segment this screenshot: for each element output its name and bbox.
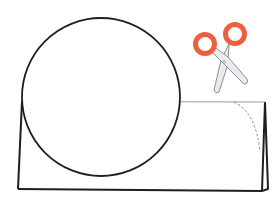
scissor-handle-right — [226, 25, 245, 44]
scissors-icon — [196, 25, 248, 93]
circle-outline — [22, 18, 180, 176]
tent-card-diagram — [0, 0, 279, 201]
diagram-canvas — [0, 0, 279, 201]
scissor-handle-left — [196, 35, 215, 54]
